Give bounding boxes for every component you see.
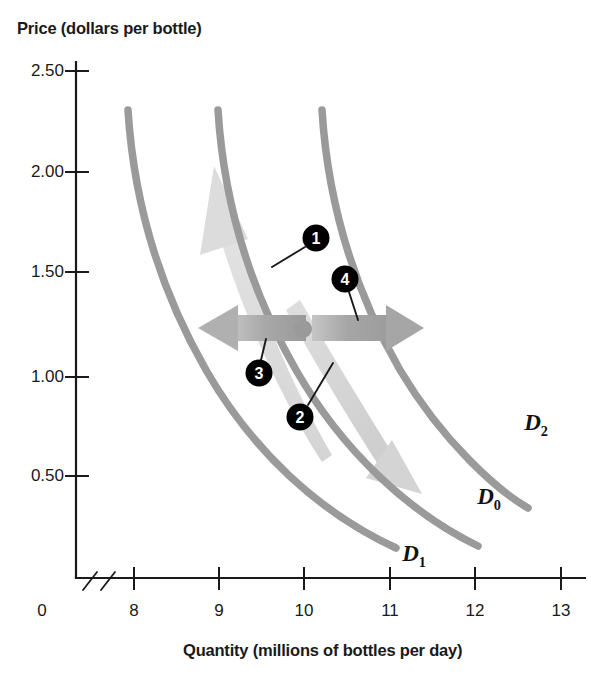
badge-1-leader bbox=[272, 247, 305, 267]
equilibrium-point bbox=[294, 320, 312, 338]
demand-shift-figure: Price (dollars per bottle) Quantity (mil… bbox=[0, 0, 591, 678]
axis-break-mark bbox=[83, 572, 115, 590]
curve-label-d0: D0 bbox=[477, 484, 501, 514]
x-tick-label-8: 8 bbox=[114, 601, 154, 621]
y-tick-label-0-50: 0.50 bbox=[6, 466, 64, 486]
x-tick-label-13: 13 bbox=[541, 601, 581, 621]
x-tick-label-9: 9 bbox=[199, 601, 239, 621]
x-tick-label-0: 0 bbox=[22, 601, 62, 621]
curve-label-d2: D2 bbox=[524, 410, 548, 440]
x-tick-label-10: 10 bbox=[284, 601, 324, 621]
curve-label-d1: D1 bbox=[402, 541, 426, 571]
x-tick-label-11: 11 bbox=[370, 601, 410, 621]
y-tick-label-2-50: 2.50 bbox=[6, 61, 64, 81]
badge-2: 2 bbox=[287, 404, 314, 431]
x-axis-title: Quantity (millions of bottles per day) bbox=[183, 641, 462, 660]
y-tick-label-1-00: 1.00 bbox=[6, 367, 64, 387]
x-tick-label-12: 12 bbox=[455, 601, 495, 621]
badge-4: 4 bbox=[332, 266, 359, 293]
y-tick-label-1-50: 1.50 bbox=[6, 262, 64, 282]
y-axis-title: Price (dollars per bottle) bbox=[17, 19, 202, 38]
y-tick-label-2-00: 2.00 bbox=[6, 162, 64, 182]
badge-1: 1 bbox=[303, 225, 330, 252]
plot-canvas bbox=[0, 0, 591, 678]
badge-3: 3 bbox=[246, 360, 273, 387]
